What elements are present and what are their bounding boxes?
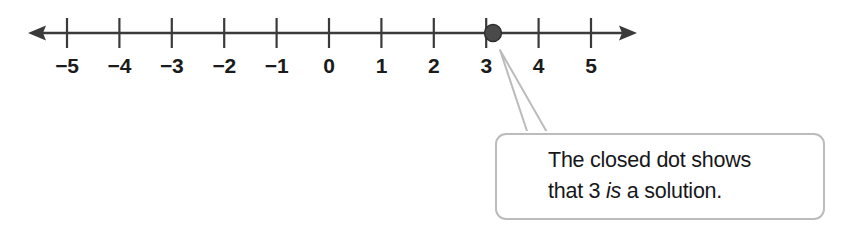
callout-line-2: that 3 is a solution. bbox=[548, 176, 810, 207]
tick-label-1: 1 bbox=[358, 55, 404, 77]
tick-label-neg3: −3 bbox=[149, 55, 195, 77]
tick-label-neg1: −1 bbox=[254, 55, 300, 77]
tick-label-2: 2 bbox=[411, 55, 457, 77]
number-line-figure: −5 −4 −3 −2 −1 0 1 2 3 4 5 The closed do… bbox=[0, 0, 843, 227]
callout-line-2-suffix: a solution. bbox=[621, 179, 722, 203]
callout-line-1: The closed dot shows bbox=[548, 145, 810, 176]
tick-label-neg2: −2 bbox=[201, 55, 247, 77]
tick-label-5: 5 bbox=[568, 55, 614, 77]
tick-label-neg4: −4 bbox=[96, 55, 142, 77]
closed-dot-marker bbox=[485, 25, 502, 42]
callout-line-2-prefix: that 3 bbox=[548, 179, 606, 203]
tick-label-4: 4 bbox=[516, 55, 562, 77]
callout-line-2-italic: is bbox=[606, 179, 621, 203]
tick-label-0: 0 bbox=[306, 55, 352, 77]
callout-text: The closed dot shows that 3 is a solutio… bbox=[548, 145, 810, 207]
tick-label-neg5: −5 bbox=[44, 55, 90, 77]
tick-label-3: 3 bbox=[463, 55, 509, 77]
